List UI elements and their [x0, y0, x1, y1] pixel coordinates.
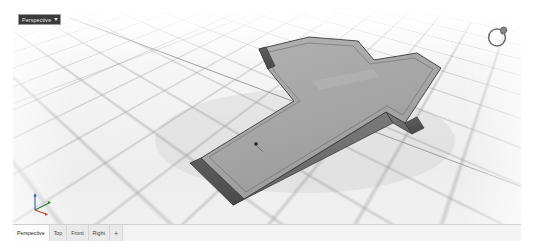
viewport-tabbar-filler	[123, 225, 521, 241]
axis-gizmo	[27, 188, 57, 216]
axis-x-line-icon	[35, 210, 46, 214]
chevron-down-icon[interactable]	[54, 18, 58, 21]
viewport-tab-right-label: Right	[93, 230, 105, 236]
add-viewport-tab-button[interactable]: +	[110, 225, 123, 241]
viewport-tabbar: Perspective Top Front Right +	[13, 224, 521, 241]
app-root: Perspective	[0, 0, 535, 250]
view-rotation-ring-widget[interactable]	[485, 23, 511, 49]
viewport-tab-top-label: Top	[54, 230, 63, 236]
viewport-tab-front[interactable]: Front	[67, 225, 88, 241]
viewport-tab-perspective[interactable]: Perspective	[13, 225, 50, 241]
viewport-tab-front-label: Front	[71, 230, 83, 236]
viewport-title-label: Perspective	[22, 17, 51, 23]
viewport-title-tab[interactable]: Perspective	[18, 14, 61, 25]
axis-x-arrow-icon	[45, 213, 48, 216]
viewport-canvas[interactable]: Perspective	[13, 11, 521, 224]
cross-solid-model[interactable]	[13, 11, 521, 224]
nav-ring-knob-icon[interactable]	[501, 27, 507, 33]
axis-z-arrow-icon	[33, 193, 36, 196]
plus-icon: +	[114, 230, 118, 237]
axis-y-line-icon	[35, 203, 49, 210]
viewport-tab-right[interactable]: Right	[89, 225, 110, 241]
viewport-tab-perspective-label: Perspective	[17, 230, 45, 236]
viewport-shell: Perspective	[13, 11, 521, 241]
viewport-tab-top[interactable]: Top	[50, 225, 68, 241]
